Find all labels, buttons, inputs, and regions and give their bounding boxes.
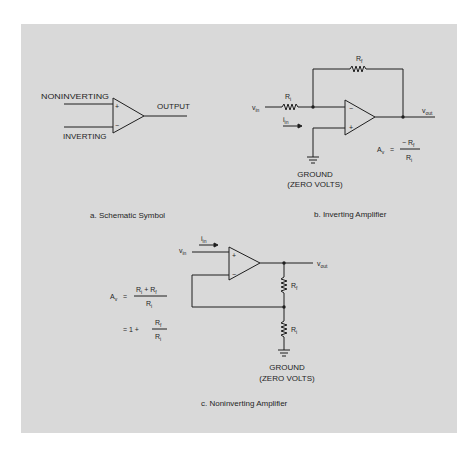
opamp-diagram: NONINVERTING INVERTING OUTPUT + − a. Sch… bbox=[21, 24, 457, 433]
vin-label-b: vin bbox=[252, 104, 260, 113]
inverting-label: INVERTING bbox=[63, 132, 106, 141]
rf-label-c: Rf bbox=[291, 282, 298, 291]
gain-lhs-c: Av bbox=[110, 293, 118, 302]
ground-label-c: GROUND bbox=[269, 363, 305, 372]
ri-label-b: Ri bbox=[285, 93, 291, 102]
gain-num-b: − Rf bbox=[402, 139, 415, 148]
plus-sign-a: + bbox=[115, 103, 119, 110]
ri-resistor-b bbox=[282, 104, 298, 110]
gain-frac2-den-c: Ri bbox=[155, 333, 161, 342]
junction-dot-c-output bbox=[282, 261, 285, 264]
gain-eq-b: = bbox=[390, 146, 394, 153]
vout-label-b: vout bbox=[422, 107, 433, 116]
ri-label-c: Ri bbox=[291, 326, 297, 335]
iin-label-b: iin bbox=[283, 116, 289, 125]
ground-icon-c bbox=[278, 350, 290, 356]
minus-sign-c: − bbox=[232, 271, 236, 278]
caption-c: c. Noninverting Amplifier bbox=[201, 399, 288, 408]
gain-frac2-num-c: Rf bbox=[155, 319, 162, 328]
gain-lhs-b: Av bbox=[377, 146, 385, 155]
rf-resistor-c bbox=[281, 277, 287, 293]
ground-label-b: GROUND bbox=[297, 170, 333, 179]
plus-sign-c: + bbox=[232, 252, 236, 259]
vin-label-c: vin bbox=[179, 247, 187, 256]
junction-dot-c-divider bbox=[282, 305, 285, 308]
minus-sign-b: − bbox=[349, 105, 353, 112]
iin-label-c: iin bbox=[201, 235, 207, 244]
minus-sign-a: − bbox=[115, 122, 119, 129]
caption-a: a. Schematic Symbol bbox=[90, 211, 165, 220]
vout-label-c: vout bbox=[317, 260, 328, 269]
zero-volts-label-c: (ZERO VOLTS) bbox=[259, 374, 315, 383]
gain-eq2-c: = 1 + bbox=[123, 326, 139, 333]
ri-resistor-c bbox=[281, 321, 287, 337]
output-label: OUTPUT bbox=[157, 102, 190, 111]
plus-sign-b: + bbox=[349, 124, 353, 131]
ground-icon-b bbox=[307, 157, 319, 163]
rf-label-b: Rf bbox=[356, 55, 363, 64]
gain-num-c: Ri+Rf bbox=[136, 286, 157, 295]
opamp-figure: NONINVERTING INVERTING OUTPUT + − a. Sch… bbox=[21, 24, 457, 433]
zero-volts-label-b: (ZERO VOLTS) bbox=[287, 180, 343, 189]
junction-dot-b-output bbox=[401, 115, 404, 118]
caption-b: b. Inverting Amplifier bbox=[314, 210, 387, 219]
noninverting-label: NONINVERTING bbox=[41, 92, 109, 101]
gain-den-b: Ri bbox=[406, 154, 412, 163]
rf-resistor-b bbox=[350, 66, 366, 72]
gain-eq-c: = bbox=[123, 293, 127, 300]
current-arrow-icon-b bbox=[283, 124, 302, 128]
current-arrow-icon-c bbox=[199, 243, 218, 247]
panel-b-inverting-amplifier bbox=[265, 66, 435, 163]
junction-dot-b-input bbox=[311, 105, 314, 108]
gain-den-c: Ri bbox=[146, 300, 152, 309]
